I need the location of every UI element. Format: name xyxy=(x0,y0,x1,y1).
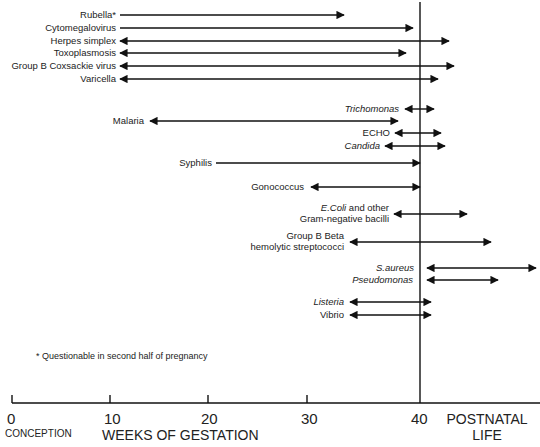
tick-20: 20 xyxy=(201,410,218,427)
label-gbs-line1: Group B Beta xyxy=(286,230,344,241)
label-syphilis: Syphilis xyxy=(179,157,212,168)
tick-0: 0 xyxy=(7,410,15,427)
x-axis-title: WEEKS OF GESTATION xyxy=(102,427,259,443)
label-ecoli-rest: and other xyxy=(346,202,389,213)
label-listeria: Listeria xyxy=(313,296,344,307)
label-varicella: Varicella xyxy=(80,73,116,84)
label-vibrio: Vibrio xyxy=(320,309,344,320)
postnatal-life-label: POSTNATALLIFE xyxy=(444,411,530,443)
postnatal-line2: LIFE xyxy=(472,427,502,443)
tick-10: 10 xyxy=(104,410,121,427)
label-rubella: Rubella* xyxy=(80,9,116,20)
conception-label: CONCEPTION xyxy=(5,428,72,439)
label-toxoplasmosis: Toxoplasmosis xyxy=(54,47,116,58)
tick-30: 30 xyxy=(301,410,318,427)
label-echo: ECHO xyxy=(363,127,390,138)
label-ecoli: E.Coli and otherGram-negative bacilli xyxy=(300,202,389,224)
label-malaria: Malaria xyxy=(113,115,144,126)
label-ecoli-line2: Gram-negative bacilli xyxy=(300,213,389,224)
label-saureus: S.aureus xyxy=(376,262,414,273)
footnote: * Questionable in second half of pregnan… xyxy=(36,351,208,361)
postnatal-line1: POSTNATAL xyxy=(446,411,527,427)
label-ecoli-italic: E.Coli xyxy=(321,202,346,213)
tick-40: 40 xyxy=(411,410,428,427)
label-gbs-line2: hemolytic streptococci xyxy=(251,241,344,252)
label-cmv: Cytomegalovirus xyxy=(45,22,116,33)
label-herpes: Herpes simplex xyxy=(51,35,116,46)
label-coxsackie: Group B Coxsackie virus xyxy=(11,60,116,71)
label-pseudomonas: Pseudomonas xyxy=(352,274,413,285)
label-candida: Candida xyxy=(345,140,380,151)
label-gonococcus: Gonococcus xyxy=(251,181,304,192)
label-trichomonas: Trichomonas xyxy=(345,103,399,114)
label-gbs: Group B Betahemolytic streptococci xyxy=(251,230,344,252)
